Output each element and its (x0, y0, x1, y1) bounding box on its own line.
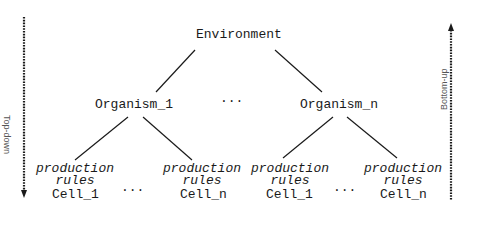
cell-n-node-org-n: Cell_n (380, 188, 427, 201)
organism-1-node: Organism_1 (95, 98, 173, 111)
rules-line-2: rules (163, 175, 241, 187)
arrow-down-icon (21, 190, 27, 198)
organism-n-node: Organism_n (300, 98, 378, 111)
cell-1-rules: production rules (36, 163, 114, 187)
environment-node: Environment (196, 28, 282, 41)
rules-line-2: rules (36, 175, 114, 187)
rules-line-2: rules (364, 175, 442, 187)
edge-environment-organism-1 (156, 50, 195, 92)
organism-ellipsis: ... (220, 92, 243, 105)
edge-organism-1-cell-n (143, 117, 192, 160)
edge-environment-organism-n (275, 50, 322, 92)
arrow-up-icon (448, 23, 454, 31)
cell-n-node: Cell_n (180, 188, 227, 201)
edge-organism-n-cell-n (347, 117, 397, 158)
cell-n-rules-org-n: production rules (364, 163, 442, 187)
cell-1-node-org-n: Cell_1 (266, 188, 313, 201)
top-down-label: Top-down (2, 115, 12, 154)
bottom-up-label: Bottom-up (439, 68, 449, 110)
rules-line-2: rules (251, 175, 329, 187)
cell-n-rules: production rules (163, 163, 241, 187)
cell-1-rules-org-n: production rules (251, 163, 329, 187)
edge-organism-n-cell-1 (283, 117, 333, 158)
cell-ellipsis-left: ... (121, 181, 144, 194)
cell-1-node: Cell_1 (52, 188, 99, 201)
cell-ellipsis-right: ... (333, 181, 356, 194)
edge-organism-1-cell-1 (75, 117, 128, 160)
